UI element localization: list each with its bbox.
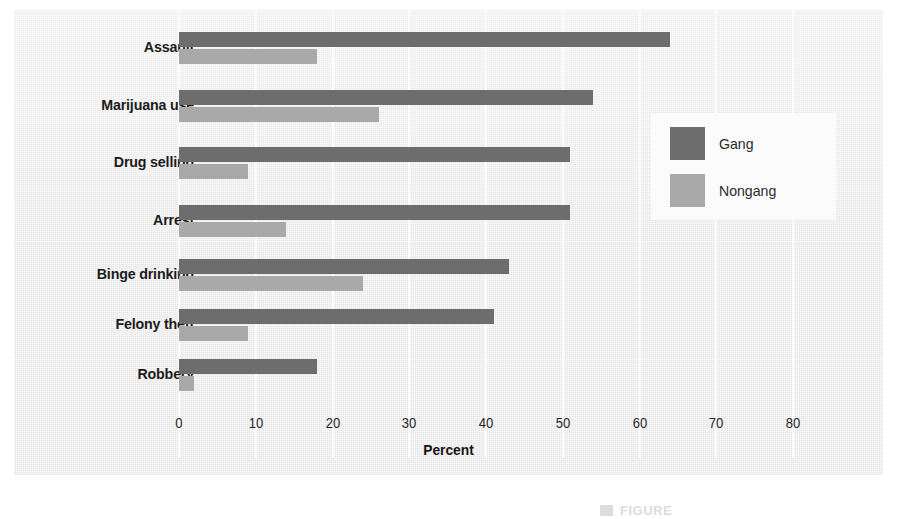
bar-gang-arrest xyxy=(179,205,570,220)
caption-text: FIGURE xyxy=(620,503,672,518)
legend-label-nongang: Nongang xyxy=(719,182,776,199)
caption-block: FIGURE xyxy=(600,503,672,518)
x-tick-20: 20 xyxy=(315,415,351,431)
x-tick-70: 70 xyxy=(698,415,734,431)
bar-nongang-drug-selling xyxy=(179,164,248,179)
bar-nongang-robbery xyxy=(179,376,194,391)
legend-item-nongang: Nongang xyxy=(670,174,780,207)
bar-nongang-binge-drinking xyxy=(179,276,363,291)
bar-gang-binge-drinking xyxy=(179,259,509,274)
category-label-arrest: Arrest xyxy=(0,211,194,229)
category-label-marijuana-use: Marijuana use xyxy=(0,96,194,114)
legend-swatch-gang xyxy=(670,127,705,160)
bar-gang-marijuana-use xyxy=(179,90,593,105)
x-axis-title: Percent xyxy=(36,441,861,458)
caption-marker-icon xyxy=(600,505,613,516)
bar-nongang-marijuana-use xyxy=(179,107,379,122)
x-tick-40: 40 xyxy=(468,415,504,431)
category-label-felony-theft: Felony theft xyxy=(0,315,194,333)
figure-container: AssaultMarijuana useDrug sellingArrestBi… xyxy=(0,0,897,519)
bar-gang-robbery xyxy=(179,359,317,374)
category-label-drug-selling: Drug selling xyxy=(0,153,194,171)
legend-item-gang: Gang xyxy=(670,127,756,160)
caption-strip: FIGURE xyxy=(0,476,897,519)
bar-group-assault: Assault xyxy=(0,32,897,66)
category-label-robbery: Robbery xyxy=(0,365,194,383)
x-tick-30: 30 xyxy=(391,415,427,431)
bar-nongang-felony-theft xyxy=(179,326,248,341)
x-tick-60: 60 xyxy=(622,415,658,431)
x-tick-80: 80 xyxy=(775,415,811,431)
chart-legend: Gang Nongang xyxy=(651,113,836,220)
bar-gang-assault xyxy=(179,32,670,47)
bar-gang-felony-theft xyxy=(179,309,494,324)
bar-group-felony-theft: Felony theft xyxy=(0,309,897,343)
x-tick-50: 50 xyxy=(545,415,581,431)
x-tick-0: 0 xyxy=(161,415,197,431)
bar-nongang-arrest xyxy=(179,222,286,237)
bar-group-binge-drinking: Binge drinking xyxy=(0,259,897,293)
legend-label-gang: Gang xyxy=(719,135,754,152)
x-tick-10: 10 xyxy=(238,415,274,431)
bar-gang-drug-selling xyxy=(179,147,570,162)
category-label-binge-drinking: Binge drinking xyxy=(0,265,194,283)
category-label-assault: Assault xyxy=(0,38,194,56)
bar-group-robbery: Robbery xyxy=(0,359,897,393)
bar-nongang-assault xyxy=(179,49,317,64)
legend-swatch-nongang xyxy=(670,174,705,207)
